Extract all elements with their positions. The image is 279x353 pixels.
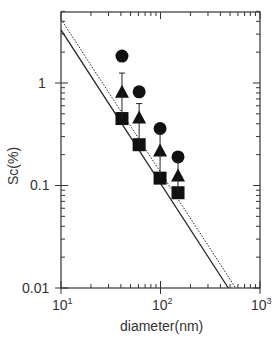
y-axis-label: Sc(%) [5,147,21,185]
y-tick-label-1: 1 [38,75,46,91]
solid-fit-line [61,30,228,288]
circle-marker [154,122,167,135]
fit-lines [61,19,236,288]
x-tick-label-10-3: 103 [251,296,272,313]
data-points [115,50,185,200]
x-axis-label: diameter(nm) [120,318,203,334]
y-tick-label-0.1: 0.1 [30,177,49,193]
x-tick-label-10-1: 101 [52,296,73,313]
dotted-fit-line [61,19,236,288]
y-tick-label-0.01: 0.01 [22,280,49,296]
circle-marker [133,85,146,98]
circle-marker [115,50,128,63]
x-tick-label-10-2: 102 [152,296,173,313]
